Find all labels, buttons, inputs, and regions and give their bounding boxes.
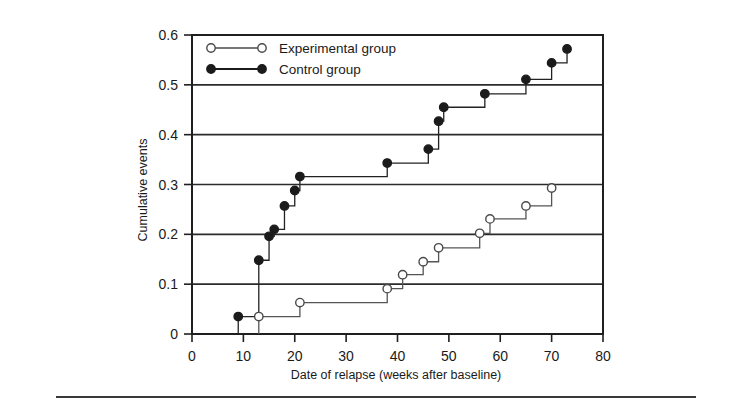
x-tick-label-4: 40 <box>390 348 406 364</box>
y-tick-label-2: 0.2 <box>159 226 179 242</box>
data-point-0-9 <box>547 184 555 192</box>
legend-label-1: Control group <box>279 62 361 77</box>
y-axis-tick-labels: 00.10.20.30.40.50.6 <box>159 27 179 342</box>
x-tick-label-2: 20 <box>287 348 303 364</box>
legend-marker-0-1 <box>258 44 266 52</box>
data-point-0-4 <box>419 258 427 266</box>
data-point-0-0 <box>255 312 263 320</box>
x-tick-label-1: 10 <box>236 348 252 364</box>
x-axis-tick-labels: 01020304050607080 <box>188 348 611 364</box>
data-point-0-3 <box>398 270 406 278</box>
x-tick-label-0: 0 <box>188 348 196 364</box>
cumulative-events-step-chart: 01020304050607080 00.10.20.30.40.50.6 Ex… <box>0 0 747 411</box>
y-tick-label-6: 0.6 <box>159 27 179 43</box>
data-point-0-6 <box>476 229 484 237</box>
y-axis-title: Cumulative events <box>136 139 150 242</box>
data-point-0-2 <box>383 284 391 292</box>
x-tick-label-8: 80 <box>595 348 611 364</box>
series-line-1 <box>238 49 567 334</box>
data-point-1-3 <box>270 225 278 233</box>
data-point-1-6 <box>296 172 304 180</box>
series-line-0 <box>259 188 552 334</box>
legend-marker-1-0 <box>207 65 215 73</box>
series-data-markers <box>234 45 571 321</box>
data-point-1-14 <box>563 45 571 53</box>
gridlines-group <box>192 85 603 284</box>
data-point-0-7 <box>486 215 494 223</box>
x-tick-label-7: 70 <box>544 348 560 364</box>
y-axis-ticks <box>184 35 192 334</box>
data-point-0-8 <box>522 202 530 210</box>
legend: Experimental groupControl group <box>207 41 396 77</box>
x-tick-label-5: 50 <box>441 348 457 364</box>
data-point-1-12 <box>522 75 530 83</box>
x-axis-title: Date of relapse (weeks after baseline) <box>291 368 502 382</box>
footer-divider <box>56 396 696 398</box>
data-point-1-10 <box>440 103 448 111</box>
legend-label-0: Experimental group <box>279 41 396 56</box>
data-point-1-11 <box>481 90 489 98</box>
series-step-lines <box>238 49 567 334</box>
x-tick-label-6: 60 <box>492 348 508 364</box>
y-tick-label-4: 0.4 <box>159 127 179 143</box>
y-tick-label-3: 0.3 <box>159 177 179 193</box>
x-tick-label-3: 30 <box>338 348 354 364</box>
data-point-1-9 <box>434 117 442 125</box>
data-point-1-4 <box>280 202 288 210</box>
y-tick-label-0: 0 <box>170 326 178 342</box>
legend-marker-1-1 <box>258 65 266 73</box>
x-axis-ticks <box>192 334 603 342</box>
data-point-1-1 <box>255 256 263 264</box>
y-tick-label-1: 0.1 <box>159 276 179 292</box>
data-point-1-7 <box>383 159 391 167</box>
data-point-0-5 <box>434 244 442 252</box>
legend-marker-0-0 <box>207 44 215 52</box>
data-point-1-5 <box>291 186 299 194</box>
figure-container: 01020304050607080 00.10.20.30.40.50.6 Ex… <box>0 0 747 411</box>
data-point-1-0 <box>234 312 242 320</box>
data-point-0-1 <box>296 298 304 306</box>
data-point-1-13 <box>547 59 555 67</box>
y-tick-label-5: 0.5 <box>159 77 179 93</box>
data-point-1-8 <box>424 145 432 153</box>
